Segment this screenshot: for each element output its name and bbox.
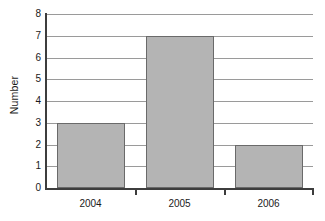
- bar: [57, 123, 125, 188]
- x-axis-tick: [135, 189, 137, 195]
- y-axis-tick-label: 1: [35, 161, 41, 171]
- gridline: [46, 14, 313, 15]
- y-axis-tick-label: 4: [35, 96, 41, 106]
- x-axis-tick: [224, 189, 226, 195]
- y-axis-title-text: Number: [8, 76, 20, 115]
- bar: [235, 145, 303, 189]
- bar-chart: Number 012345678 200420052006: [0, 0, 325, 221]
- y-axis-tick-label: 7: [35, 31, 41, 41]
- plot-area: 012345678 200420052006: [46, 14, 313, 188]
- x-axis-tick-label: 2004: [79, 198, 101, 209]
- y-axis-tick-label: 5: [35, 74, 41, 84]
- x-axis-tick-label: 2005: [168, 198, 190, 209]
- y-axis-tick-label: 6: [35, 53, 41, 63]
- x-axis-line: [45, 188, 314, 190]
- y-axis-title: Number: [0, 0, 28, 190]
- x-axis-tick-end: [312, 189, 314, 195]
- y-axis-tick-label: 3: [35, 118, 41, 128]
- y-axis-tick-label: 0: [35, 183, 41, 193]
- x-axis-tick-label: 2006: [257, 198, 279, 209]
- y-axis-line: [45, 13, 47, 189]
- y-axis-tick-label: 2: [35, 140, 41, 150]
- bar: [146, 36, 214, 188]
- y-axis-tick-label: 8: [35, 9, 41, 19]
